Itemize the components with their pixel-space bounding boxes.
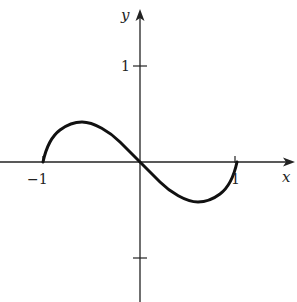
y-tick-label-1: 1 bbox=[121, 58, 130, 74]
x-axis-label: x bbox=[282, 168, 291, 186]
function-graph: y x −1 1 1 bbox=[0, 0, 297, 302]
x-tick-label-neg1: −1 bbox=[27, 171, 48, 187]
y-axis-label: y bbox=[120, 6, 130, 24]
x-tick-label-1: 1 bbox=[231, 171, 240, 187]
